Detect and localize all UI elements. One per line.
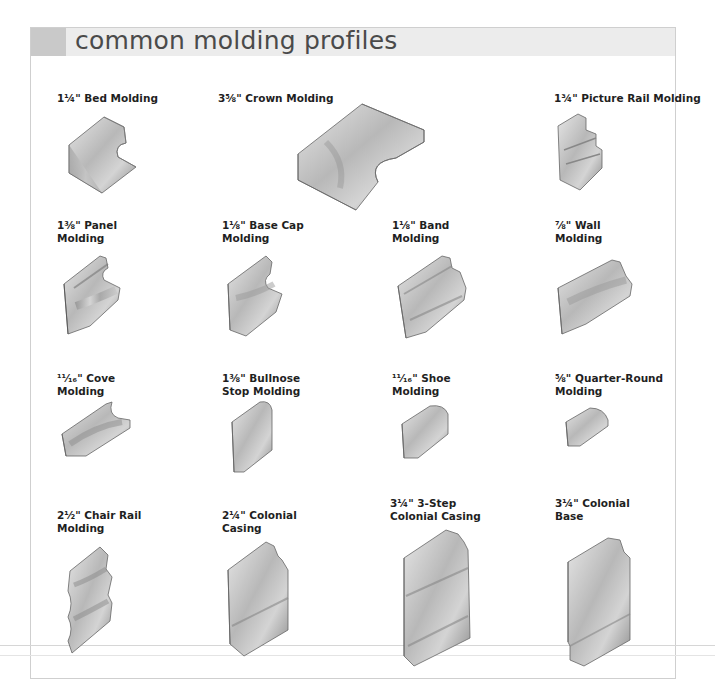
- picture-rail-molding-illustration: [556, 112, 611, 192]
- band-molding-illustration: [396, 254, 474, 339]
- molding-label: 1⅜" BullnoseStop Molding: [222, 372, 300, 398]
- molding-label: ⅞" WallMolding: [555, 219, 602, 245]
- chair-rail-molding-illustration: [64, 545, 114, 655]
- molding-label: 3¼" ColonialBase: [555, 497, 630, 523]
- colonial-base-illustration: [566, 536, 634, 668]
- shoe-molding-illustration: [400, 404, 455, 462]
- page-title: common molding profiles: [75, 26, 398, 56]
- molding-label: 1⅛" BandMolding: [392, 219, 449, 245]
- bed-molding-illustration: [66, 115, 141, 195]
- molding-label: ¹¹⁄₁₆" CoveMolding: [57, 372, 115, 398]
- bullnose-stop-molding-illustration: [230, 400, 280, 476]
- molding-label: 1⅜" PanelMolding: [57, 219, 117, 245]
- molding-label: ⅝" Quarter-RoundMolding: [555, 372, 663, 398]
- molding-label: 1⅛" Base CapMolding: [222, 219, 304, 245]
- base-cap-molding-illustration: [226, 254, 286, 336]
- cove-molding-illustration: [60, 400, 135, 458]
- header-accent-block: [31, 28, 66, 56]
- wall-molding-illustration: [556, 258, 638, 336]
- quarter-round-molding-illustration: [564, 406, 612, 450]
- molding-label: 1¾" Picture Rail Molding: [554, 92, 701, 105]
- three-step-colonial-casing-illustration: [402, 528, 474, 668]
- panel-molding-illustration: [60, 254, 130, 334]
- molding-label: 2¼" ColonialCasing: [222, 509, 297, 535]
- molding-label: 2½" Chair RailMolding: [57, 509, 141, 535]
- molding-label: 3¼" 3-StepColonial Casing: [390, 497, 481, 523]
- colonial-casing-illustration: [226, 540, 296, 658]
- molding-label: ¹¹⁄₁₆" ShoeMolding: [392, 372, 451, 398]
- crown-molding-illustration: [296, 102, 431, 212]
- molding-label: 1¼" Bed Molding: [57, 92, 158, 105]
